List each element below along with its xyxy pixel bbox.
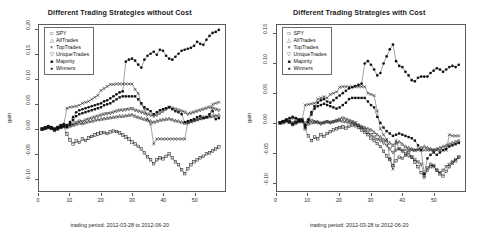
y-tick-mark: [273, 93, 276, 94]
series-spy: [41, 125, 220, 175]
x-tick-label: 10: [66, 197, 72, 203]
legend-item-alltrades: △AllTrades: [47, 37, 89, 44]
legend-item-label: AllTrades: [294, 37, 316, 44]
legend-item-toptrades: ×TopTrades: [47, 44, 89, 51]
y-tick-label: 0.10: [22, 72, 34, 78]
panel-without-cost: Different Trading Strategies without Cos…: [0, 0, 240, 236]
x-axis-label: trading period: 2012-03-28 to 2012-06-20: [0, 222, 240, 228]
triangle-down-marker: ▽: [47, 51, 56, 58]
legend-item-label: AllTrades: [56, 37, 78, 44]
x-tick-label: 50: [192, 197, 198, 203]
y-tick-label: -0.10: [260, 176, 272, 182]
square-open-marker: □: [285, 30, 294, 37]
x-axis-label: trading period: 2012-03-28 to 2012-06-20: [240, 222, 479, 228]
y-tick-mark: [273, 153, 276, 154]
x-tick-mark: [371, 193, 372, 196]
x-tick-label: 20: [336, 197, 342, 203]
legend-item-alltrades: △AllTrades: [285, 37, 327, 44]
x-tick-label: 0: [37, 197, 40, 203]
legend-with-cost: □SPY△AllTrades×TopTrades▽UniqueTrades■Ma…: [282, 27, 332, 75]
legend-item-majority: ■Majority: [47, 58, 89, 65]
y-axis-label: gain: [6, 113, 12, 123]
y-tick-label: 0.00: [22, 122, 34, 128]
legend-item-label: TopTrades: [294, 44, 319, 51]
x-tick-mark: [195, 193, 196, 196]
x-tick-mark: [276, 193, 277, 196]
legend-item-uniquetrades: ▽UniqueTrades: [47, 51, 89, 58]
y-tick-mark: [273, 123, 276, 124]
legend-item-winners: ●Winners: [285, 65, 327, 72]
cross-x-marker: ×: [47, 44, 56, 51]
square-filled-marker: ■: [47, 58, 56, 65]
y-tick-mark: [273, 33, 276, 34]
square-filled-marker: ■: [285, 58, 294, 65]
x-tick-label: 30: [129, 197, 135, 203]
x-tick-label: 30: [368, 197, 374, 203]
y-tick-label: -0.10: [22, 172, 34, 178]
legend-item-label: Majority: [56, 58, 75, 65]
x-tick-mark: [163, 193, 164, 196]
x-tick-mark: [38, 193, 39, 196]
legend-item-winners: ●Winners: [47, 65, 89, 72]
y-tick-mark: [273, 63, 276, 64]
page-title: Different Trading Strategies with Cost: [240, 8, 479, 17]
x-tick-mark: [101, 193, 102, 196]
legend-item-majority: ■Majority: [285, 58, 327, 65]
y-tick-mark: [35, 179, 38, 180]
x-tick-mark: [307, 193, 308, 196]
legend-item-label: UniqueTrades: [56, 51, 89, 58]
y-tick-label: 0.05: [260, 86, 272, 92]
x-tick-mark: [434, 193, 435, 196]
legend-item-uniquetrades: ▽UniqueTrades: [285, 51, 327, 58]
y-tick-label: 0.00: [260, 116, 272, 122]
x-tick-label: 50: [431, 197, 437, 203]
y-tick-label: 0.15: [22, 47, 34, 53]
triangle-up-marker: △: [285, 37, 294, 44]
x-tick-label: 0: [274, 197, 277, 203]
legend-item-label: TopTrades: [56, 44, 81, 51]
y-tick-mark: [35, 54, 38, 55]
legend-item-label: Winners: [294, 65, 313, 72]
circle-filled-marker: ●: [285, 65, 294, 72]
y-tick-mark: [35, 79, 38, 80]
triangle-down-marker: ▽: [285, 51, 294, 58]
legend-item-label: SPY: [294, 30, 305, 37]
legend-without-cost: □SPY△AllTrades×TopTrades▽UniqueTrades■Ma…: [44, 27, 94, 75]
legend-item-toptrades: ×TopTrades: [285, 44, 327, 51]
x-tick-mark: [402, 193, 403, 196]
chart-page: Different Trading Strategies without Cos…: [0, 0, 479, 236]
y-tick-label: 0.20: [22, 22, 34, 28]
series-toptrades: [41, 82, 221, 145]
y-tick-mark: [35, 104, 38, 105]
series-majority: [278, 97, 459, 175]
y-tick-mark: [35, 29, 38, 30]
legend-item-label: UniqueTrades: [294, 51, 327, 58]
legend-item-spy: □SPY: [285, 30, 327, 37]
y-axis-label: gain: [246, 113, 252, 123]
y-tick-label: -0.05: [260, 146, 272, 152]
cross-x-marker: ×: [285, 44, 294, 51]
y-tick-label: 0.15: [260, 26, 272, 32]
triangle-up-marker: △: [47, 37, 56, 44]
y-tick-mark: [35, 129, 38, 130]
x-tick-label: 40: [399, 197, 405, 203]
x-tick-mark: [132, 193, 133, 196]
x-tick-label: 20: [98, 197, 104, 203]
x-tick-label: 40: [160, 197, 166, 203]
y-tick-label: 0.10: [260, 56, 272, 62]
y-tick-mark: [273, 183, 276, 184]
page-title: Different Trading Strategies without Cos…: [0, 8, 240, 17]
panel-with-cost: Different Trading Strategies with Cost g…: [240, 0, 479, 236]
x-tick-mark: [69, 193, 70, 196]
x-tick-mark: [339, 193, 340, 196]
square-open-marker: □: [47, 30, 56, 37]
x-tick-label: 10: [304, 197, 310, 203]
y-tick-label: 0.05: [22, 97, 34, 103]
y-tick-label: -0.05: [22, 147, 34, 153]
legend-item-label: Majority: [294, 58, 313, 65]
circle-filled-marker: ●: [47, 65, 56, 72]
legend-item-label: Winners: [56, 65, 75, 72]
legend-item-label: SPY: [56, 30, 67, 37]
y-tick-mark: [35, 154, 38, 155]
legend-item-spy: □SPY: [47, 30, 89, 37]
